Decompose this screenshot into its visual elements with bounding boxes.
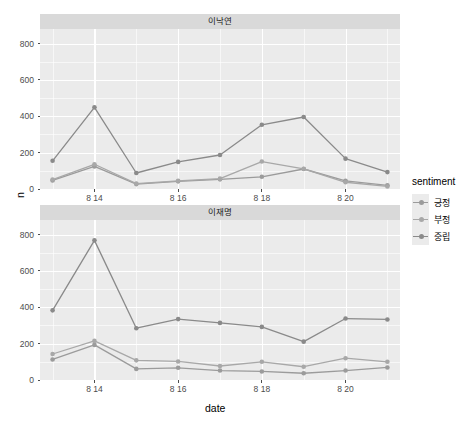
data-point bbox=[134, 181, 139, 186]
data-point bbox=[176, 366, 181, 371]
x-tick-mark bbox=[178, 380, 179, 383]
series-중립 bbox=[50, 238, 389, 344]
y-tick-label: 600 bbox=[8, 266, 34, 276]
data-point bbox=[50, 308, 55, 313]
legend: sentiment 긍정부정중립 bbox=[412, 176, 474, 248]
data-point bbox=[301, 167, 306, 172]
legend-item-긍정[interactable]: 긍정 bbox=[412, 194, 450, 211]
x-tick-label: 8 18 bbox=[242, 384, 282, 394]
facet-strip: 이낙연 bbox=[40, 14, 400, 29]
y-tick-label: 0 bbox=[8, 184, 34, 194]
series-layer bbox=[40, 220, 400, 380]
data-point bbox=[260, 159, 265, 164]
y-tick-mark bbox=[38, 79, 41, 80]
x-tick-mark bbox=[261, 189, 262, 192]
data-point bbox=[218, 321, 223, 326]
x-tick-mark bbox=[94, 380, 95, 383]
facet-panel: 이재명 bbox=[40, 205, 400, 380]
series-부정 bbox=[50, 159, 389, 189]
data-point bbox=[134, 326, 139, 331]
x-tick-mark bbox=[261, 380, 262, 383]
data-point bbox=[343, 368, 348, 373]
series-line bbox=[53, 166, 388, 185]
data-point bbox=[385, 360, 390, 365]
y-tick-mark bbox=[38, 43, 41, 44]
facet-strip: 이재명 bbox=[40, 205, 400, 220]
series-중립 bbox=[50, 105, 389, 175]
y-tick-label: 800 bbox=[8, 39, 34, 49]
data-point bbox=[50, 177, 55, 182]
series-부정 bbox=[50, 339, 389, 369]
x-tick-label: 8 18 bbox=[242, 193, 282, 203]
chart-root: n date 이낙연이재명 sentiment 긍정부정중립 020040060… bbox=[0, 0, 474, 425]
y-tick-label: 200 bbox=[8, 148, 34, 158]
facet-panel: 이낙연 bbox=[40, 14, 400, 189]
y-tick-mark bbox=[38, 380, 41, 381]
x-tick-label: 8 16 bbox=[158, 193, 198, 203]
legend-item-label: 부정 bbox=[434, 213, 450, 226]
legend-item-label: 중립 bbox=[434, 230, 450, 243]
data-point bbox=[343, 156, 348, 161]
data-point bbox=[176, 179, 181, 184]
data-point bbox=[385, 317, 390, 322]
data-point bbox=[385, 365, 390, 370]
y-tick-mark bbox=[38, 152, 41, 153]
series-line bbox=[53, 240, 388, 341]
plot-area bbox=[40, 29, 400, 189]
legend-key-point bbox=[419, 217, 424, 222]
data-point bbox=[50, 352, 55, 357]
x-tick-mark bbox=[178, 189, 179, 192]
data-point bbox=[176, 160, 181, 165]
legend-item-중립[interactable]: 중립 bbox=[412, 228, 450, 245]
y-tick-label: 0 bbox=[8, 375, 34, 385]
data-point bbox=[218, 176, 223, 181]
y-tick-mark bbox=[38, 189, 41, 190]
data-point bbox=[385, 170, 390, 175]
data-point bbox=[260, 360, 265, 365]
x-tick-mark bbox=[345, 189, 346, 192]
y-tick-mark bbox=[38, 270, 41, 271]
legend-item-부정[interactable]: 부정 bbox=[412, 211, 450, 228]
y-tick-mark bbox=[38, 343, 41, 344]
x-tick-label: 8 20 bbox=[326, 193, 366, 203]
data-point bbox=[176, 359, 181, 364]
series-line bbox=[53, 107, 388, 173]
legend-key-swatch bbox=[412, 194, 429, 211]
data-point bbox=[92, 238, 97, 243]
y-tick-label: 400 bbox=[8, 302, 34, 312]
y-tick-label: 400 bbox=[8, 111, 34, 121]
data-point bbox=[301, 364, 306, 369]
data-point bbox=[92, 162, 97, 167]
y-tick-label: 800 bbox=[8, 230, 34, 240]
facet-strip-label: 이재명 bbox=[208, 208, 232, 217]
data-point bbox=[343, 356, 348, 361]
data-point bbox=[301, 339, 306, 344]
series-layer bbox=[40, 29, 400, 189]
data-point bbox=[218, 368, 223, 373]
x-tick-mark bbox=[94, 189, 95, 192]
plot-area bbox=[40, 220, 400, 380]
x-axis-title: date bbox=[205, 402, 225, 414]
y-tick-label: 200 bbox=[8, 339, 34, 349]
legend-title: sentiment bbox=[412, 176, 455, 187]
data-point bbox=[176, 317, 181, 322]
legend-key-point bbox=[419, 234, 424, 239]
data-point bbox=[260, 369, 265, 374]
data-point bbox=[385, 184, 390, 189]
data-point bbox=[50, 357, 55, 362]
x-tick-label: 8 16 bbox=[158, 384, 198, 394]
legend-item-label: 긍정 bbox=[434, 196, 450, 209]
legend-key-swatch bbox=[412, 211, 429, 228]
data-point bbox=[260, 175, 265, 180]
series-line bbox=[53, 341, 388, 367]
data-point bbox=[92, 105, 97, 110]
y-tick-mark bbox=[38, 307, 41, 308]
data-point bbox=[134, 367, 139, 372]
data-point bbox=[134, 358, 139, 363]
series-line bbox=[53, 162, 388, 187]
y-tick-label: 600 bbox=[8, 75, 34, 85]
data-point bbox=[92, 343, 97, 348]
y-tick-mark bbox=[38, 116, 41, 117]
data-point bbox=[50, 159, 55, 164]
legend-key-point bbox=[419, 200, 424, 205]
